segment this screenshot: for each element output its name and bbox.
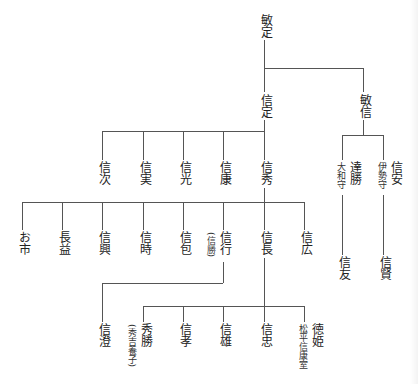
person-name: 信行 [217,231,230,255]
node-nobuzane: 信実 [137,161,150,185]
person-name: 信澄 [96,323,109,347]
person-name: 長益 [56,231,69,255]
node-hidekatsu: 秀勝 (秀吉養子) [127,323,151,367]
person-name: 信次 [96,161,109,185]
person-title: 伊勢守 [377,162,387,189]
node-nobutada: 信忠 [258,323,271,347]
node-nobuyasu: 信康 [217,161,230,185]
node-nobuyasu-ise: 信安 伊勢守 [377,161,401,189]
node-nagamasu: 長益 [56,231,69,255]
node-nobuoki: 信興 [96,231,109,255]
person-name: 信安 [388,161,401,185]
node-nobumitsu: 信光 [177,161,190,185]
person-name: 徳姫 [309,323,322,347]
person-alias: (信勝) [206,232,216,257]
page-edge-shadow [410,0,418,384]
person-name: 信雄 [217,323,230,347]
node-nobutomo: 信友 [336,256,349,280]
person-name: 信興 [96,231,109,255]
person-name: お市 [16,231,29,255]
node-nobunaga: 信長 [258,231,271,255]
person-name: 信定 [258,94,271,118]
person-name: 信光 [177,161,190,185]
person-name: 秀勝 [138,323,151,347]
person-name: 信秀 [258,161,271,185]
family-tree-lines [0,0,418,384]
node-nobusumi: 信澄 [96,323,109,347]
node-nobutsugu: 信次 [96,161,109,185]
person-name: 信孝 [177,323,190,347]
node-nobuhiro: 信広 [298,231,311,255]
person-name: 敏定 [258,14,271,38]
node-michikatsu: 達勝 大和守 [336,161,360,189]
person-name: 信康 [217,161,230,185]
person-name: 信友 [336,256,349,280]
person-name: 信実 [137,161,150,185]
node-nobutoki: 信時 [137,231,150,255]
person-name: 敏信 [357,94,370,118]
person-name: 信包 [177,231,190,255]
node-nobuhide: 信秀 [258,161,271,185]
node-nobuyuki: 信行 (信勝) [206,231,230,257]
node-nobukata: 信賢 [377,256,390,280]
person-note: 松平信康室 [298,324,308,369]
person-name: 信広 [298,231,311,255]
node-tokuhime: 徳姫 松平信康室 [298,323,322,369]
node-toshisada: 敏定 [258,14,271,38]
person-name: 信忠 [258,323,271,347]
node-oichi: お市 [16,231,29,255]
person-name: 信時 [137,231,150,255]
person-name: 信長 [258,231,271,255]
node-toshinobu: 敏信 [357,94,370,118]
node-nobukatsu: 信雄 [217,323,230,347]
node-nobutaka: 信孝 [177,323,190,347]
person-title: 大和守 [336,162,346,189]
person-name: 信賢 [377,256,390,280]
person-name: 達勝 [347,161,360,185]
node-nobukane: 信包 [177,231,190,255]
person-note: (秀吉養子) [127,324,137,367]
node-nobusada: 信定 [258,94,271,118]
